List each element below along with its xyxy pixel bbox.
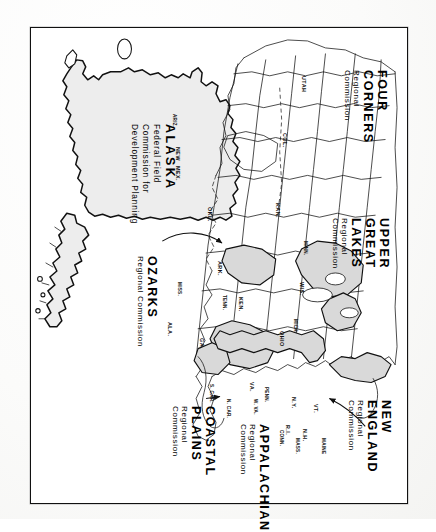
state-label: PENN. <box>264 387 269 403</box>
state-label: ARIZ. <box>172 114 177 128</box>
state-label: N. CAR. <box>226 399 231 418</box>
state-label: OKL. <box>207 207 213 222</box>
alaska-line-2: Commission for <box>141 124 151 224</box>
appalachian-sub-1: Regional <box>248 424 257 532</box>
appalachian-sub-2: Commission <box>239 424 248 532</box>
map-frame-border: .out{fill:#ffffff;stroke:#111;stroke-wid… <box>30 27 408 504</box>
ozarks-sub: Regional Commission <box>136 256 145 347</box>
alaska-inset-label: ALASKA Federal Field Commission for Deve… <box>130 124 177 224</box>
state-label: CONN. <box>279 430 284 446</box>
state-label: GA. <box>199 338 205 349</box>
label-upper-great-lakes: UPPER GREAT LAKES Regional Commission <box>331 218 391 269</box>
state-label: TENN. <box>222 295 227 310</box>
four-corners-name: FOUR CORNERS <box>361 70 389 144</box>
state-label: MISS. <box>177 282 182 296</box>
coastal-plains-name-1: COASTAL <box>203 406 217 477</box>
state-label: KEN. <box>238 297 244 312</box>
label-coastal-plains: COASTAL PLAINS Regional Commission <box>171 406 217 477</box>
alaska-line-1: Federal Field <box>152 124 162 224</box>
coastal-plains-name-2: PLAINS <box>189 406 203 477</box>
state-label: ALA. <box>167 322 173 336</box>
state-label: S. CAR. <box>209 384 214 403</box>
state-label: OHIO <box>279 331 285 347</box>
state-label: VA. <box>249 382 255 392</box>
state-label: NEW <box>175 147 181 161</box>
state-label: MEX. <box>175 166 181 181</box>
label-four-corners: FOUR CORNERS Regional Commission <box>343 70 389 144</box>
new-england-name: NEW ENGLAND <box>365 400 393 473</box>
ugl-name-1: UPPER <box>377 218 391 269</box>
state-label: MICH. <box>293 319 298 334</box>
state-label: MAINE <box>321 438 326 454</box>
ugl-sub-1: Regional <box>340 218 349 269</box>
new-england-sub: Regional Commission <box>347 400 365 473</box>
alaska-line-3: Development Planning <box>130 124 140 224</box>
state-label: MASS. <box>295 438 300 454</box>
state-label: ARK. <box>217 261 223 276</box>
label-appalachian: APPALACHIAN Regional Commission <box>239 424 271 532</box>
state-label: W. VA. <box>253 399 258 415</box>
label-new-england: NEW ENGLAND Regional Commission <box>347 400 393 473</box>
state-label: VT. <box>313 404 319 413</box>
coastal-plains-sub-1: Regional <box>180 406 189 477</box>
state-label: COL. <box>282 133 288 148</box>
ozarks-name: OZARKS <box>145 256 159 347</box>
coastal-plains-sub-2: Commission <box>171 406 180 477</box>
state-label: UTAH <box>301 76 307 92</box>
state-label: KAN. <box>275 203 281 218</box>
appalachian-name: APPALACHIAN <box>257 424 271 532</box>
ugl-sub-2: Commission <box>331 218 340 269</box>
state-label: WIS. <box>299 282 305 295</box>
label-ozarks: OZARKS Regional Commission <box>136 256 159 347</box>
state-label: R.I. <box>285 425 291 435</box>
state-label: MINN. <box>303 241 308 256</box>
ugl-name-2: GREAT <box>363 218 377 269</box>
ugl-name-3: LAKES <box>349 218 363 269</box>
state-label: N.H. <box>302 429 308 442</box>
state-label: N.Y. <box>291 397 297 409</box>
four-corners-sub: Regional Commission <box>343 70 361 144</box>
